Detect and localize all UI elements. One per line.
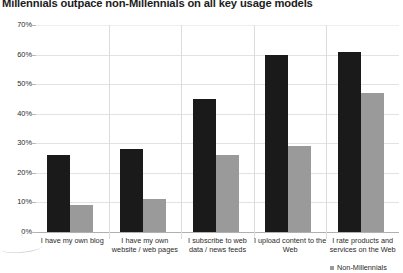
chart-container: Millennials outpace non-Millennials on a… bbox=[0, 0, 403, 273]
y-axis-tick bbox=[32, 173, 36, 174]
y-axis-tick bbox=[32, 232, 36, 233]
y-axis-tick bbox=[32, 84, 36, 85]
chart-title: Millennials outpace non-Millennials on a… bbox=[2, 0, 401, 9]
bar-non-millennials bbox=[288, 146, 311, 232]
y-axis-tick-label: 20% bbox=[6, 169, 32, 177]
bar-millennials bbox=[338, 52, 361, 232]
y-axis-tick-label: 10% bbox=[6, 198, 32, 206]
x-axis-category-label: I have my own website / web pages bbox=[109, 236, 182, 255]
bar-non-millennials bbox=[361, 93, 384, 232]
y-axis-tick bbox=[32, 55, 36, 56]
chart-legend: Non-Millennials bbox=[330, 263, 387, 272]
category-separator bbox=[109, 25, 110, 239]
legend-swatch-non-millennials bbox=[330, 266, 334, 270]
bar-non-millennials bbox=[216, 155, 239, 232]
x-axis-labels: I have my own blogI have my own website … bbox=[36, 236, 399, 260]
y-axis-tick-label: 50% bbox=[6, 80, 32, 88]
y-axis-tick-label: 40% bbox=[6, 110, 32, 118]
bar-non-millennials bbox=[70, 205, 93, 232]
y-axis-tick bbox=[32, 114, 36, 115]
y-axis-tick-label: 60% bbox=[6, 51, 32, 59]
x-axis-category-label: I subscribe to web data / news feeds bbox=[181, 236, 254, 255]
bar-millennials bbox=[265, 55, 288, 232]
gridline bbox=[36, 232, 399, 233]
x-axis-category-label: I have my own blog bbox=[36, 236, 109, 245]
y-axis-labels: 70%60%50%40%30%20%10%0% bbox=[4, 25, 32, 232]
y-axis-tick-label: 70% bbox=[6, 21, 32, 29]
category-separator bbox=[181, 25, 182, 239]
gridline bbox=[36, 25, 399, 26]
x-axis-category-label: I upload content to the Web bbox=[254, 236, 327, 255]
y-axis-tick-label: 30% bbox=[6, 139, 32, 147]
x-axis-category-label: I rate products and services on the Web bbox=[326, 236, 399, 255]
bar-millennials bbox=[193, 99, 216, 232]
y-axis-tick bbox=[32, 202, 36, 203]
category-separator bbox=[326, 25, 327, 239]
y-axis-tick bbox=[32, 25, 36, 26]
legend-label-non-millennials: Non-Millennials bbox=[337, 263, 387, 272]
plot-area bbox=[36, 25, 399, 232]
bar-non-millennials bbox=[143, 199, 166, 232]
scan-artifact-secondary bbox=[20, 232, 30, 240]
bar-millennials bbox=[47, 155, 70, 232]
y-axis-tick bbox=[32, 143, 36, 144]
category-separator bbox=[254, 25, 255, 239]
bar-millennials bbox=[120, 149, 143, 232]
